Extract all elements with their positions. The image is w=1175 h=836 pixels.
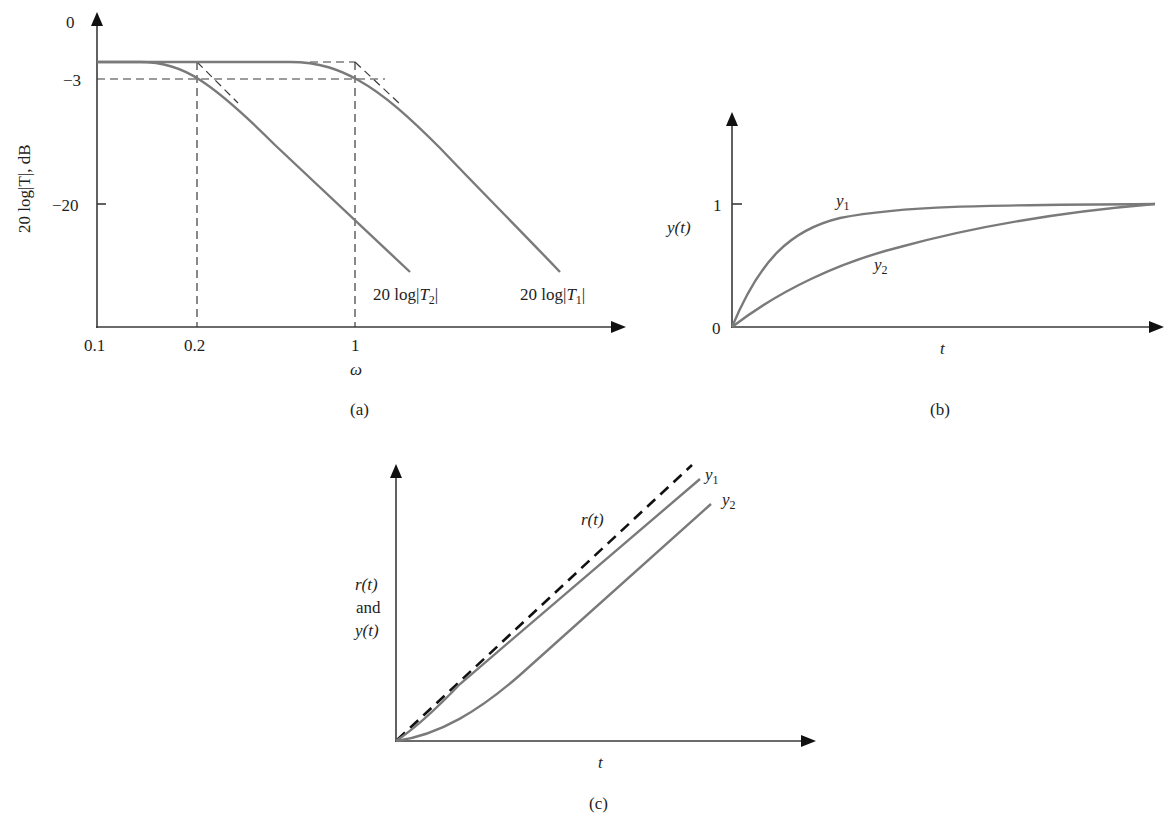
panel-c-label-y1: y1 xyxy=(703,465,719,487)
figure-canvas: 0 −3 −20 0.1 0.2 1 ω 20 log|T|, dB 20 lo… xyxy=(0,0,1175,836)
arrow-up-icon xyxy=(726,112,738,126)
panel-b-ytick-0: 0 xyxy=(712,319,721,338)
panel-c-curve-y1 xyxy=(396,479,700,741)
panel-a-xtick-0.2: 0.2 xyxy=(184,336,205,355)
panel-b-step-response: 1 0 y(t) t y1 y2 (b) xyxy=(665,112,1164,419)
arrow-right-icon xyxy=(611,321,626,333)
panel-a-ytick-m20: −20 xyxy=(52,196,79,215)
panel-b-ytick-1: 1 xyxy=(713,196,722,215)
panel-a-xtick-0.1: 0.1 xyxy=(84,336,105,355)
panel-c-ramp-response: r(t) y1 y2 r(t) and y(t) t (c) xyxy=(353,464,816,813)
panel-a-ytick-m3: −3 xyxy=(63,71,81,90)
panel-a-ytick-0: 0 xyxy=(66,13,75,32)
panel-c-label-y2: y2 xyxy=(720,490,736,512)
panel-a-caption: (a) xyxy=(350,400,369,419)
panel-a-label-t2: 20 log|T2| xyxy=(373,285,438,307)
arrow-up-icon xyxy=(390,464,402,478)
panel-b-curve-y1 xyxy=(732,204,1155,327)
arrow-right-icon xyxy=(801,735,816,747)
arrow-up-icon xyxy=(91,12,103,26)
panel-c-label-r: r(t) xyxy=(581,510,604,529)
panel-c-xlabel: t xyxy=(598,753,604,772)
panel-a-curve-t2 xyxy=(97,62,410,272)
panel-a-ylabel: 20 log|T|, dB xyxy=(15,144,34,233)
arrow-right-icon xyxy=(1149,321,1164,333)
panel-b-label-y1: y1 xyxy=(834,191,850,213)
panel-a-label-t1: 20 log|T1| xyxy=(520,285,585,307)
panel-b-xlabel: t xyxy=(940,339,946,358)
panel-a-xtick-1: 1 xyxy=(351,336,360,355)
panel-c-ylabel-line3: y(t) xyxy=(353,621,379,640)
panel-a-xlabel: ω xyxy=(350,360,362,379)
panel-c-curve-y2 xyxy=(396,504,711,741)
panel-b-curve-y2 xyxy=(732,204,1155,327)
panel-b-ylabel: y(t) xyxy=(665,218,691,237)
panel-b-caption: (b) xyxy=(930,400,950,419)
panel-c-curve-r xyxy=(397,465,692,740)
panel-c-ylabel-line1: r(t) xyxy=(355,575,378,594)
panel-b-label-y2: y2 xyxy=(872,255,888,277)
panel-a-curve-t1 xyxy=(97,62,560,272)
panel-c-ylabel-line2: and xyxy=(356,598,381,617)
panel-a-bode-plot: 0 −3 −20 0.1 0.2 1 ω 20 log|T|, dB 20 lo… xyxy=(15,12,626,419)
panel-c-caption: (c) xyxy=(589,794,608,813)
